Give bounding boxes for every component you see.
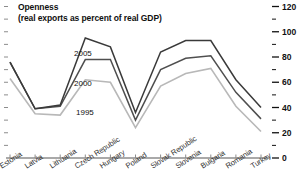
y-axis-tick-label: 60 (282, 77, 292, 87)
y-axis-tick-label: 80 (282, 52, 292, 62)
chart-plot-area: 020406080100120200520001995 (0, 0, 308, 195)
series-annotation-1995: 1995 (76, 108, 94, 117)
y-axis-tick-label: 100 (282, 27, 296, 37)
y-axis-tick-label: 20 (282, 128, 292, 138)
y-axis-tick-label: 0 (282, 153, 287, 163)
y-axis-tick-label: 40 (282, 103, 292, 113)
y-axis-tick-label: 120 (282, 2, 296, 12)
series-annotation-2000: 2000 (74, 79, 92, 88)
series-line-1995 (10, 68, 261, 131)
openness-chart: Openness (real exports as percent of rea… (0, 0, 308, 195)
series-annotation-2005: 2005 (74, 49, 92, 58)
